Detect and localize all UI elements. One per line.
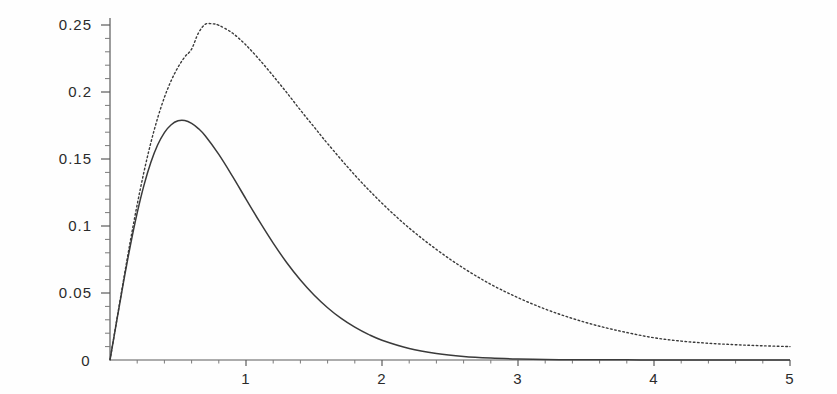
series-solid-curve xyxy=(110,120,790,360)
y-tick-label: 0.1 xyxy=(68,217,92,234)
y-tick-label: 0.05 xyxy=(59,284,92,301)
ticks-group xyxy=(101,25,790,366)
y-tick-label: 0.2 xyxy=(68,83,92,100)
x-tick-label: 1 xyxy=(241,370,250,387)
y-tick-label: 0.15 xyxy=(59,150,92,167)
tick-labels-group: 0123450.050.10.150.20.25 xyxy=(59,16,795,387)
x-tick-label: 4 xyxy=(649,370,658,387)
x-tick-label: 3 xyxy=(513,370,522,387)
series-dotted-curve xyxy=(110,23,790,360)
x-tick-label: 5 xyxy=(785,370,794,387)
x-tick-label: 2 xyxy=(377,370,386,387)
curves-group xyxy=(110,23,790,360)
y-tick-label: 0.25 xyxy=(59,16,92,33)
axes-group xyxy=(110,18,790,360)
line-chart-plot: 0123450.050.10.150.20.25 xyxy=(0,0,837,394)
chart-page: 0123450.050.10.150.20.25 xyxy=(0,0,837,394)
x-tick-label: 0 xyxy=(81,352,90,369)
